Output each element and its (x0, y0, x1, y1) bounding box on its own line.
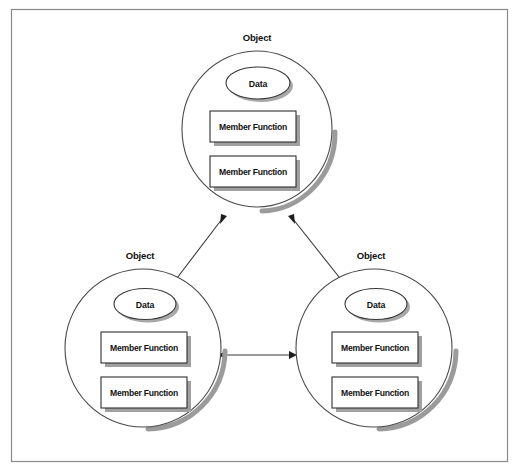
object-bottom-right-data-label: Data (367, 300, 386, 310)
object-bottom-right-member-1-label: Member Function (341, 343, 409, 353)
object-top-data-label: Data (249, 79, 268, 89)
object-bottom-left-member-2-label: Member Function (110, 388, 178, 398)
object-bottom-left-label: Object (126, 250, 155, 261)
diagram-canvas: Object Data Member Function Member Funct… (0, 0, 519, 474)
object-top-label: Object (243, 32, 272, 43)
object-top-member-2-label: Member Function (219, 167, 287, 177)
object-bottom-right-member-2-label: Member Function (341, 388, 409, 398)
object-bottom-left-member-1-label: Member Function (110, 343, 178, 353)
object-bottom-left-data-label: Data (136, 300, 155, 310)
object-communication-diagram: Object Data Member Function Member Funct… (0, 0, 519, 474)
object-top-member-1-label: Member Function (219, 122, 287, 132)
object-bottom-right-label: Object (357, 250, 386, 261)
